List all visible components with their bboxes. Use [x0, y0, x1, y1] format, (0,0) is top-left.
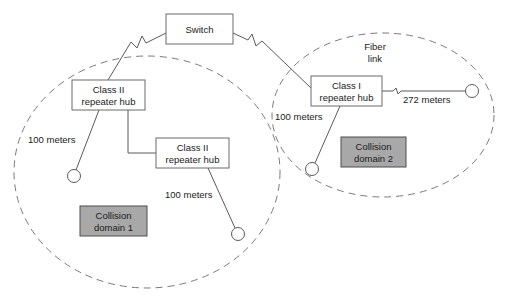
diagram-canvas: Switch Class II repeater hub Class II re… [0, 0, 505, 307]
length-label-left-lower-station: 100 meters [165, 189, 213, 200]
collision-domain-1-boundary [14, 56, 280, 288]
length-label-right-station: 100 meters [275, 111, 323, 122]
hub-right-node[interactable]: Class I repeater hub [311, 76, 382, 106]
hub-left-top-node[interactable]: Class II repeater hub [72, 80, 145, 110]
link-switch-to-hub-right [233, 33, 311, 88]
station-right-fiber [466, 85, 479, 98]
station-left-upper [68, 170, 81, 183]
hub-left-lower-node[interactable]: Class II repeater hub [156, 138, 229, 168]
collision-domain-2-label-line2: domain 2 [354, 153, 393, 164]
link-hub-left-to-hub-left-lower [128, 110, 156, 153]
collision-domain-2-node: Collision domain 2 [341, 137, 406, 167]
collision-domain-1-node: Collision domain 1 [80, 206, 147, 236]
length-label-fiber: 272 meters [403, 94, 451, 105]
fiber-link-annotation-line2: link [368, 53, 383, 64]
collision-domain-1-label-line1: Collision [96, 210, 132, 221]
hub-left-top-label-line2: repeater hub [82, 96, 136, 107]
hub-right-label-line1: Class I [332, 80, 361, 91]
length-label-left-station: 100 meters [28, 134, 76, 145]
station-right-lower [306, 163, 319, 176]
collision-domain-2-label-line1: Collision [356, 141, 392, 152]
switch-node[interactable]: Switch [166, 14, 233, 44]
hub-right-label-line2: repeater hub [320, 92, 374, 103]
station-left-lower [232, 228, 245, 241]
switch-label: Switch [186, 24, 214, 35]
hub-left-top-label-line1: Class II [93, 84, 125, 95]
fiber-link-annotation-line1: Fiber [364, 41, 386, 52]
link-hub-left-to-station-left-upper [76, 110, 99, 170]
hub-left-lower-label-line2: repeater hub [166, 154, 220, 165]
hub-left-lower-label-line1: Class II [177, 142, 209, 153]
collision-domain-1-label-line2: domain 1 [94, 222, 133, 233]
